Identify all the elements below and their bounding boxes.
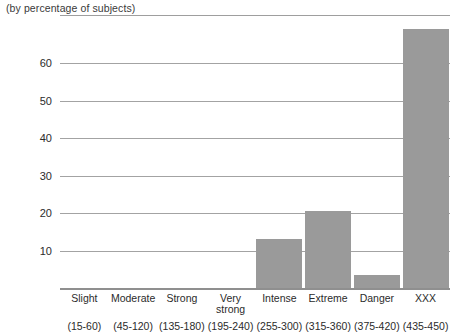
y-axis-tick-label: 10 — [0, 245, 52, 257]
x-axis-category-danger: Danger(375-420) — [353, 293, 402, 304]
x-category-name: Slight — [60, 293, 109, 304]
x-category-range: (195-240) — [206, 321, 255, 332]
bar-danger — [354, 275, 400, 288]
y-axis-tick-label: 60 — [0, 57, 52, 69]
x-axis-baseline — [60, 288, 450, 290]
bar-extreme — [305, 211, 351, 288]
bar-intense — [256, 239, 302, 288]
x-category-range: (135-180) — [158, 321, 207, 332]
gridline-30 — [60, 176, 450, 177]
plot-area: 102030405060 — [60, 18, 450, 288]
y-axis-tick-label: 20 — [0, 207, 52, 219]
x-axis-category-extreme: Extreme(315-360) — [304, 293, 353, 304]
x-axis-category-intense: Intense(255-300) — [255, 293, 304, 304]
x-axis-category-xxx: XXX(435-450) — [401, 293, 450, 304]
x-category-range: (45-120) — [109, 321, 158, 332]
x-axis-labels: Slight(15-60)Moderate(45-120)Strong(135-… — [60, 293, 450, 336]
gridline-20 — [60, 213, 450, 214]
bar-xxx — [403, 29, 449, 288]
y-axis-tick-label: 30 — [0, 170, 52, 182]
x-category-name: Danger — [353, 293, 402, 304]
gridline-60 — [60, 63, 450, 64]
y-axis-tick-label: 40 — [0, 132, 52, 144]
x-axis-category-slight: Slight(15-60) — [60, 293, 109, 304]
x-category-name: Extreme — [304, 293, 353, 304]
x-category-range: (15-60) — [60, 321, 109, 332]
gridline-10 — [60, 251, 450, 252]
x-category-range: (435-450) — [401, 321, 450, 332]
x-category-range: (375-420) — [353, 321, 402, 332]
x-category-range: (315-360) — [304, 321, 353, 332]
y-axis-tick-label: 50 — [0, 95, 52, 107]
x-category-name: Moderate — [109, 293, 158, 304]
chart-caption: (by percentage of subjects) — [6, 2, 135, 14]
x-category-name: Strong — [158, 293, 207, 304]
caption-rule — [60, 15, 450, 16]
gridline-50 — [60, 101, 450, 102]
x-axis-category-strong: Strong(135-180) — [158, 293, 207, 304]
x-category-name: Intense — [255, 293, 304, 304]
bar-chart: (by percentage of subjects) 102030405060… — [0, 0, 456, 336]
x-axis-category-very-strong: Very strong(195-240) — [206, 293, 255, 315]
x-axis-category-moderate: Moderate(45-120) — [109, 293, 158, 304]
x-category-name: Very strong — [206, 293, 255, 315]
x-category-name: XXX — [401, 293, 450, 304]
gridline-40 — [60, 138, 450, 139]
x-category-range: (255-300) — [255, 321, 304, 332]
